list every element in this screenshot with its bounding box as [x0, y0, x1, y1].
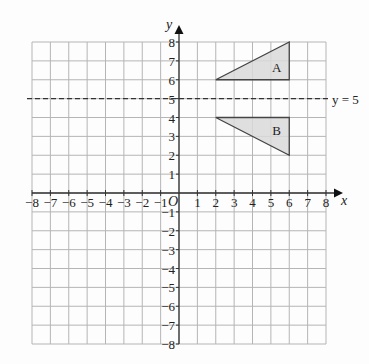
x-tick-label: −8 [25, 195, 39, 210]
y-axis-arrow-icon [175, 25, 184, 34]
x-tick-label: −7 [43, 195, 57, 210]
y-tick-label: 7 [169, 54, 176, 69]
y-tick-label: 6 [169, 73, 176, 88]
x-tick-label: −5 [80, 195, 94, 210]
x-tick-label: −2 [135, 195, 149, 210]
x-axis-label: x [340, 193, 348, 208]
x-tick-label: 1 [194, 195, 201, 210]
x-tick-label: 2 [213, 195, 220, 210]
x-tick-label: 8 [323, 195, 330, 210]
x-tick-label: 3 [231, 195, 238, 210]
y-tick-label: 8 [169, 35, 176, 50]
x-tick-label: 4 [249, 195, 256, 210]
y-tick-label: −8 [161, 337, 175, 352]
y-tick-label: 4 [169, 111, 176, 126]
x-tick-label: −4 [99, 195, 113, 210]
y-tick-label: −6 [161, 299, 175, 314]
x-tick-label: 6 [286, 195, 293, 210]
shape-label-a: A [272, 60, 282, 75]
y-tick-label: −1 [161, 205, 175, 220]
x-tick-label: 7 [304, 195, 311, 210]
y-tick-label: −4 [161, 262, 175, 277]
line-label: y = 5 [332, 92, 359, 107]
y-tick-label: −3 [161, 243, 175, 258]
y-tick-label: 2 [169, 148, 176, 163]
x-tick-label: −3 [117, 195, 131, 210]
coordinate-grid-diagram: ABxyO−8−7−6−5−4−3−2−112345678−8−7−6−5−4−… [0, 0, 369, 364]
y-tick-label: 3 [169, 129, 176, 144]
shape-label-b: B [272, 123, 281, 138]
x-tick-label: −6 [62, 195, 76, 210]
y-tick-label: −5 [161, 280, 175, 295]
y-axis-label: y [164, 17, 173, 32]
y-tick-label: 1 [169, 167, 176, 182]
y-tick-label: −2 [161, 224, 175, 239]
coordinate-plane: ABxyO−8−7−6−5−4−3−2−112345678−8−7−6−5−4−… [0, 0, 369, 364]
y-tick-label: −7 [161, 318, 175, 333]
x-tick-label: 5 [268, 195, 275, 210]
